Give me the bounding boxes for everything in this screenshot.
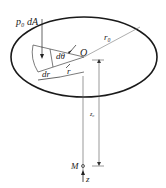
r-dimension — [60, 72, 84, 77]
dr-label: dr — [42, 69, 51, 79]
z-axis-label: z — [85, 174, 90, 184]
point-m-label: M — [70, 161, 79, 171]
z0-label: z₀ — [89, 111, 94, 117]
radius-line — [84, 27, 140, 57]
z0-bottom-arrowhead — [97, 162, 101, 166]
r0-label: r₀ — [104, 32, 111, 42]
plate-diagram: p₀ dA dθ O r₀ r dr z₀ M z — [0, 0, 166, 188]
dtheta-label: dθ — [56, 51, 66, 61]
origin-label: O — [80, 47, 87, 58]
force-label: p₀ dA — [15, 16, 39, 27]
z0-top-arrowhead — [97, 59, 101, 63]
r-label: r — [67, 66, 71, 76]
sector-inner-arc — [50, 49, 53, 67]
force-arrowhead — [40, 54, 44, 59]
z-axis-arrowhead — [81, 170, 85, 175]
